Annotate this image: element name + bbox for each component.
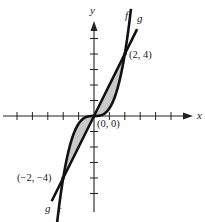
point-neg2-neg4 — [61, 176, 65, 180]
graph-figure: y x f g g f (2, 4) (0, 0) (−2, −4) — [0, 0, 205, 222]
curve-f-label-bottom: f — [57, 206, 62, 218]
curve-g-label-top: g — [137, 12, 143, 24]
y-axis-label: y — [89, 4, 95, 16]
y-axis-arrow-icon — [91, 21, 98, 31]
point-label-2-4: (2, 4) — [129, 49, 152, 61]
point-origin — [92, 114, 96, 118]
x-axis-label: x — [196, 109, 202, 121]
point-2-4 — [123, 52, 127, 56]
point-label-neg2-neg4: (−2, −4) — [17, 172, 52, 184]
curve-g-label-bottom: g — [45, 202, 51, 214]
point-label-origin: (0, 0) — [97, 118, 120, 130]
x-axis-arrow-icon — [183, 113, 193, 120]
